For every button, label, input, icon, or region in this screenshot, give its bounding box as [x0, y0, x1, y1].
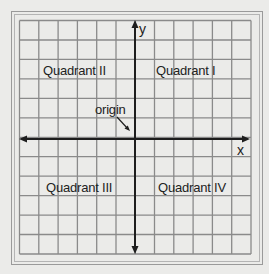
- y-axis-down-arrow-icon: [132, 246, 139, 254]
- quadrant-ii-label: Quadrant II: [43, 64, 106, 77]
- origin-label: origin: [95, 103, 126, 116]
- coordinate-plane-diagram: y x Quadrant II Quadrant I Quadrant III …: [0, 0, 269, 274]
- quadrant-iii-label: Quadrant III: [46, 181, 112, 194]
- coordinate-grid: [0, 0, 269, 274]
- quadrant-i-label: Quadrant I: [156, 64, 215, 77]
- x-axis-left-arrow-icon: [19, 136, 27, 143]
- quadrant-iv-label: Quadrant IV: [158, 181, 226, 194]
- y-axis-label: y: [139, 22, 146, 36]
- y-axis-up-arrow-icon: [132, 20, 139, 28]
- x-axis-label: x: [237, 143, 244, 157]
